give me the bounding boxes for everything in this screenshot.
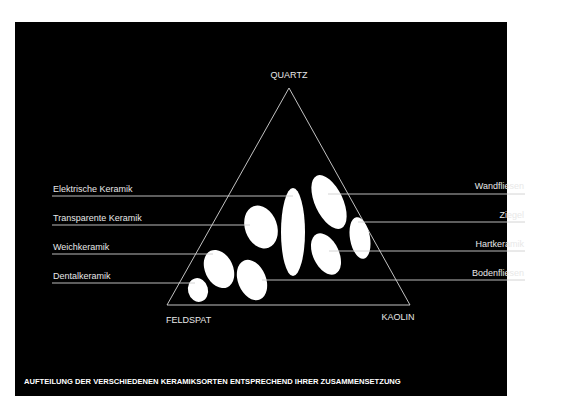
label-elektrische-keramik: Elektrische Keramik xyxy=(53,184,133,194)
label-hartkeramik: Hartkeramik xyxy=(475,239,524,249)
diagram-caption: AUFTEILUNG DER VERSCHIEDENEN KERAMIKSORT… xyxy=(24,377,401,386)
region-dentalkeramik xyxy=(185,276,211,304)
vertex-label-top: QUARTZ xyxy=(271,70,308,80)
region-wandfliesen xyxy=(304,170,354,234)
label-wandfliesen: Wandfliesen xyxy=(475,181,524,191)
vertex-label-bottom-right: KAOLIN xyxy=(381,312,414,322)
label-ziegel: Ziegel xyxy=(499,210,524,220)
region-hartkeramik xyxy=(305,229,347,280)
ternary-diagram: QUARTZ FELDSPAT KAOLIN Elektrische Keram… xyxy=(0,0,577,412)
region-transparente-keramik xyxy=(238,201,283,253)
label-weichkeramik: Weichkeramik xyxy=(53,242,110,252)
label-transparente-keramik: Transparente Keramik xyxy=(53,213,142,223)
vertex-label-bottom-left: FELDSPAT xyxy=(166,315,212,325)
region-elektrische-keramik xyxy=(281,188,305,276)
label-bodenfliesen: Bodenfliesen xyxy=(472,268,524,278)
label-dentalkeramik: Dentalkeramik xyxy=(53,271,111,281)
